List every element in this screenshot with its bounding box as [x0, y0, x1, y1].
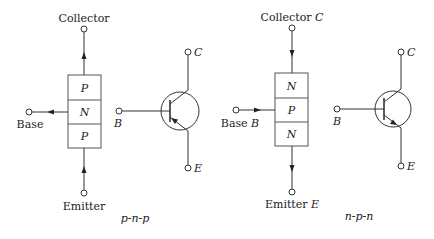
layer-p-bottom: P	[80, 130, 89, 143]
emitter-current-arrow-icon	[82, 166, 87, 173]
symbol-base-label: B	[113, 117, 122, 130]
base-current-arrow-icon	[47, 110, 54, 115]
symbol-base-terminal-npn	[334, 106, 340, 112]
collector-terminal-npn	[289, 25, 295, 31]
collector-label: Collector	[58, 12, 110, 25]
symbol-emitter-terminal-npn	[398, 163, 404, 169]
pnp-transistor-symbol: B C E	[113, 46, 203, 175]
base-terminal-npn	[233, 107, 239, 113]
emitter-current-arrow-icon-npn	[290, 165, 295, 172]
layer-n-top: N	[286, 80, 297, 93]
symbol-collector-terminal-npn	[398, 49, 404, 55]
symbol-emitter-label: E	[193, 162, 202, 175]
npn-block-diagram: Collector C N P N Base B Emitter E	[221, 11, 324, 211]
base-label-npn: Base B	[221, 117, 259, 130]
emitter-arrow-inward-icon	[171, 118, 178, 124]
emitter-label-npn: Emitter E	[265, 198, 319, 211]
pnp-type-label: p-n-p	[121, 212, 150, 225]
symbol-collector-label: C	[194, 46, 203, 59]
symbol-collector-label-npn: C	[407, 46, 416, 59]
base-label: Base	[17, 118, 44, 131]
symbol-emitter-label-npn: E	[406, 160, 415, 173]
symbol-base-terminal	[116, 108, 122, 114]
npn-transistor-symbol: B C E	[332, 46, 416, 173]
collector-terminal	[81, 26, 87, 32]
base-current-arrow-icon-npn	[254, 108, 261, 113]
layer-p-top: P	[80, 82, 89, 95]
emitter-terminal	[81, 190, 87, 196]
emitter-label: Emitter	[63, 200, 106, 213]
pnp-block-diagram: Collector P N P Base Emitter	[17, 12, 111, 213]
symbol-collector-terminal	[185, 49, 191, 55]
layer-n-middle: N	[79, 106, 90, 119]
npn-type-label: n-p-n	[345, 210, 374, 223]
collector-current-arrow-icon	[82, 52, 87, 59]
collector-current-arrow-icon-npn	[290, 50, 295, 57]
symbol-base-label-npn: B	[332, 115, 341, 128]
emitter-terminal-npn	[289, 189, 295, 195]
layer-p-middle: P	[287, 104, 296, 117]
base-terminal	[26, 109, 32, 115]
transistor-diagram: Collector P N P Base Emitter B C E	[0, 0, 434, 239]
symbol-emitter-terminal	[185, 165, 191, 171]
layer-n-bottom: N	[286, 128, 297, 141]
collector-label-npn: Collector C	[261, 11, 325, 24]
